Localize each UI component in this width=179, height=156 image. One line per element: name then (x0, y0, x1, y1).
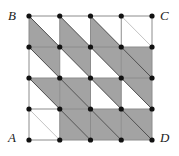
lattice-node-3-0 (26, 106, 31, 111)
lattice-node-1-3 (119, 44, 124, 49)
lattice-node-0-0 (26, 13, 31, 18)
lattice-node-3-3 (119, 106, 124, 111)
corner-label-a: A (8, 131, 16, 144)
lattice-node-3-4 (149, 106, 154, 111)
corner-label-d: D (160, 131, 169, 144)
lattice-node-4-0 (26, 137, 31, 142)
lattice-node-0-1 (57, 13, 62, 18)
lattice-node-2-2 (88, 75, 93, 80)
lattice-node-3-1 (57, 106, 62, 111)
lattice-node-4-1 (57, 137, 62, 142)
lattice-node-1-1 (57, 44, 62, 49)
lattice-node-2-1 (57, 75, 62, 80)
lattice-node-4-3 (119, 137, 124, 142)
lattice-node-3-2 (88, 106, 93, 111)
lattice-node-2-0 (26, 75, 31, 80)
lattice-node-1-0 (26, 44, 31, 49)
cell-diagonal-r4-c1 (29, 109, 60, 140)
lattice-diagram (0, 0, 179, 156)
lattice-node-0-3 (119, 13, 124, 18)
lattice-node-2-3 (119, 75, 124, 80)
corner-label-c: C (160, 9, 169, 22)
lattice-node-4-2 (88, 137, 93, 142)
corner-label-b: B (8, 9, 16, 22)
lattice-figure: B C A D (0, 0, 179, 156)
cell-diagonal-r1-c4 (121, 16, 152, 47)
lattice-node-0-4 (149, 13, 154, 18)
lattice-node-0-2 (88, 13, 93, 18)
lattice-node-4-4 (149, 137, 154, 142)
lattice-node-1-4 (149, 44, 154, 49)
lattice-node-1-2 (88, 44, 93, 49)
lattice-node-2-4 (149, 75, 154, 80)
